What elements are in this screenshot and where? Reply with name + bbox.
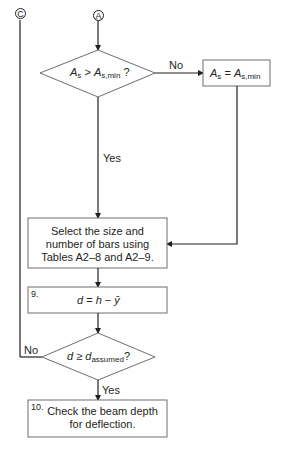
decision-2-no-label: No xyxy=(24,344,38,357)
decision-1-rhs-sub: s,min xyxy=(101,71,120,80)
decision-1-op: > xyxy=(81,66,94,78)
assign-op: = xyxy=(221,67,234,79)
decision-1-suffix: ? xyxy=(120,66,129,78)
connector-c-label: C xyxy=(17,9,24,19)
select-box-line-1: Select the size and xyxy=(28,225,167,238)
assign-to-select-arrow xyxy=(167,86,237,244)
connector-c: C xyxy=(15,8,26,19)
step9-eq: = xyxy=(83,294,96,306)
decision-2-yes-label: Yes xyxy=(102,384,120,397)
step9-ybar: ȳ xyxy=(114,294,120,306)
decision-2-suffix: ? xyxy=(124,350,130,362)
select-box-line-2: number of bars using xyxy=(28,238,167,251)
step10-line-1: Check the beam depth xyxy=(38,405,167,418)
decision-1-no-label: No xyxy=(169,59,183,72)
decision-2-text: d ≥ dassumed? xyxy=(67,350,130,366)
connector-a: A xyxy=(93,10,104,21)
assign-rhs-sub: s,min xyxy=(241,72,260,81)
step10-text: Check the beam depth for deflection. xyxy=(38,405,167,431)
step10-line-2: for deflection. xyxy=(38,418,167,431)
step9-formula: d = h − ȳ xyxy=(77,294,120,307)
select-box-line-3: Tables A2–8 and A2–9. xyxy=(28,251,167,264)
step9-minus: − xyxy=(102,294,115,306)
decision-2-d2-sub: assumed xyxy=(91,355,123,364)
decision-2-op: ≥ xyxy=(73,350,85,362)
step9-number: 9. xyxy=(31,289,39,299)
connector-a-label: A xyxy=(95,11,101,21)
decision-1-yes-label: Yes xyxy=(103,152,121,165)
assign-box-text: As = As,min xyxy=(210,67,260,83)
decision-1-text: As > As,min ? xyxy=(70,66,130,82)
select-box-text: Select the size and number of bars using… xyxy=(28,225,167,264)
